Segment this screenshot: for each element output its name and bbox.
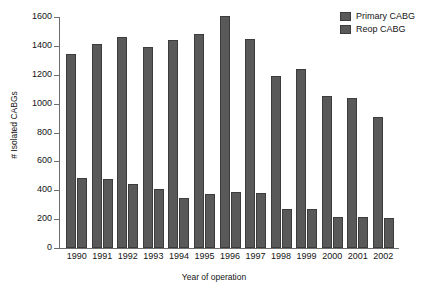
bar-group (271, 17, 292, 248)
bar-reop-cabg (384, 218, 394, 248)
y-tick-label: 1200 (32, 69, 52, 79)
x-axis-line (59, 248, 399, 249)
bar-reop-cabg (307, 209, 317, 248)
y-tick-label: 600 (37, 155, 52, 165)
bar-group (194, 17, 215, 248)
bar-reop-cabg (256, 193, 266, 248)
y-tick-mark (54, 75, 59, 76)
bar-group (117, 17, 138, 248)
bar-group (66, 17, 87, 248)
bar-primary-cabg (143, 47, 153, 248)
bar-reop-cabg (205, 194, 215, 248)
x-axis-title: Year of operation (0, 272, 428, 282)
bar-group (296, 17, 317, 248)
y-tick-label: 200 (37, 213, 52, 223)
y-axis-title: # Isolated CABGs (9, 70, 19, 180)
legend-swatch-icon (340, 25, 351, 34)
bar-primary-cabg (66, 54, 76, 248)
y-axis-line (59, 17, 60, 248)
bar-primary-cabg (296, 69, 306, 248)
bar-group (92, 17, 113, 248)
x-tick-label: 2002 (367, 251, 400, 261)
chart-legend: Primary CABGReop CABG (340, 10, 415, 36)
y-tick-mark (54, 219, 59, 220)
y-tick-label: 800 (37, 127, 52, 137)
legend-item[interactable]: Primary CABG (340, 10, 415, 22)
y-tick-mark (54, 17, 59, 18)
y-tick-label: 1000 (32, 98, 52, 108)
legend-label: Reop CABG (356, 24, 406, 34)
bar-group (220, 17, 241, 248)
y-tick-mark (54, 248, 59, 249)
legend-swatch-icon (340, 12, 351, 21)
bar-group (168, 17, 189, 248)
bar-primary-cabg (168, 40, 178, 248)
y-tick-mark (54, 161, 59, 162)
bar-primary-cabg (245, 39, 255, 248)
y-tick-mark (54, 133, 59, 134)
y-tick-mark (54, 46, 59, 47)
bar-group (245, 17, 266, 248)
y-tick-label: 400 (37, 184, 52, 194)
bar-primary-cabg (271, 76, 281, 248)
bar-chart-figure: # Isolated CABGs Year of operation 02004… (0, 0, 428, 292)
bar-reop-cabg (358, 217, 368, 248)
y-tick-label: 1600 (32, 11, 52, 21)
bar-primary-cabg (347, 98, 357, 248)
bar-group (347, 17, 368, 248)
bar-reop-cabg (128, 184, 138, 248)
y-tick-mark (54, 190, 59, 191)
bar-primary-cabg (117, 37, 127, 249)
legend-item[interactable]: Reop CABG (340, 23, 415, 35)
y-tick-label: 0 (47, 242, 52, 252)
y-tick-label: 1400 (32, 40, 52, 50)
plot-area: 02004006008001000120014001600 1990199119… (59, 14, 399, 248)
bar-reop-cabg (179, 198, 189, 248)
bar-primary-cabg (220, 16, 230, 248)
bar-group (143, 17, 164, 248)
bar-reop-cabg (103, 179, 113, 248)
bar-group (373, 17, 394, 248)
bar-primary-cabg (194, 34, 204, 248)
legend-label: Primary CABG (356, 11, 415, 21)
bar-reop-cabg (333, 217, 343, 248)
y-tick-mark (54, 104, 59, 105)
bar-reop-cabg (77, 178, 87, 248)
bar-primary-cabg (322, 96, 332, 248)
bar-reop-cabg (282, 209, 292, 248)
bar-reop-cabg (154, 189, 164, 248)
bar-primary-cabg (373, 117, 383, 248)
bar-group (322, 17, 343, 248)
bar-primary-cabg (92, 44, 102, 248)
bar-reop-cabg (231, 192, 241, 248)
